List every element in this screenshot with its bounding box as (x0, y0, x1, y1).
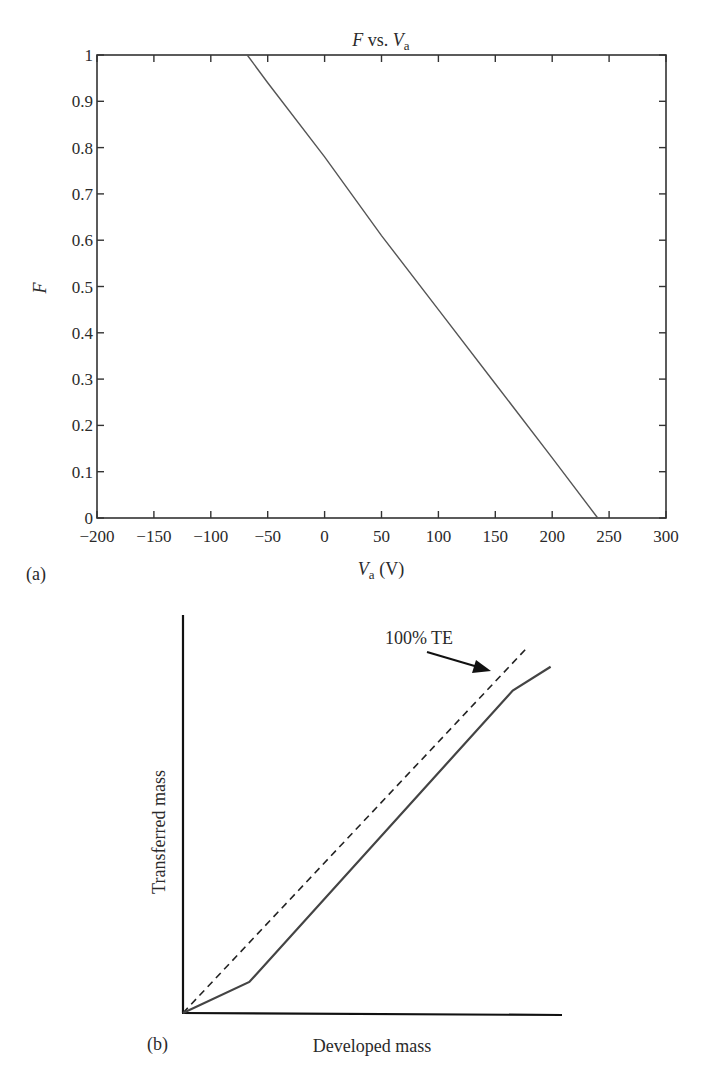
y-axis-title-a: F (30, 282, 50, 295)
x-axis-title-a: Va (V) (358, 559, 404, 582)
arrow-icon (427, 652, 491, 673)
y-tick-label: 0 (85, 509, 94, 528)
chart-panel-a: F vs. Va −200−150−100−500501001502002503… (26, 30, 679, 585)
x-tick-label: −200 (79, 527, 114, 546)
x-tick-label: 300 (653, 527, 679, 546)
x-axis-title-b: Developed mass (313, 1036, 431, 1056)
series-line-F (247, 55, 598, 518)
x-tick-label: −50 (254, 527, 281, 546)
y-tick-label: 0.4 (72, 324, 94, 343)
chart-a-title: F vs. Va (351, 30, 410, 53)
x-tick-label: −100 (193, 527, 228, 546)
y-tick-label: 1 (85, 46, 94, 65)
y-axis-title-b: Transferred mass (149, 770, 169, 894)
series-line-transferred-mass (183, 667, 551, 1013)
x-tick-label: −150 (136, 527, 171, 546)
x-tick-label: 0 (320, 527, 329, 546)
y-axis-a: 00.10.20.30.40.50.60.70.80.91 (72, 46, 666, 528)
series-line-100-te (183, 647, 528, 1013)
x-tick-label: 250 (596, 527, 622, 546)
x-tick-label: 50 (373, 527, 390, 546)
x-axis-a: −200−150−100−50050100150200250300 (79, 55, 678, 546)
x-tick-label: 200 (539, 527, 565, 546)
y-tick-label: 0.8 (72, 139, 93, 158)
plot-frame-a (97, 55, 666, 518)
panel-label-b: (b) (147, 1034, 168, 1055)
y-tick-label: 0.3 (72, 370, 93, 389)
y-tick-label: 0.1 (72, 463, 93, 482)
chart-panel-b: 100% TE Transferred mass Developed mass … (147, 615, 562, 1056)
y-tick-label: 0.7 (72, 185, 94, 204)
annotation-100-te: 100% TE (385, 628, 453, 648)
x-tick-label: 150 (483, 527, 509, 546)
x-tick-label: 100 (426, 527, 452, 546)
y-tick-label: 0.2 (72, 416, 93, 435)
y-tick-label: 0.9 (72, 92, 93, 111)
y-tick-label: 0.5 (72, 278, 93, 297)
figure: F vs. Va −200−150−100−500501001502002503… (0, 0, 706, 1085)
x-axis-b (182, 1013, 562, 1015)
panel-label-a: (a) (26, 564, 46, 585)
y-tick-label: 0.6 (72, 231, 93, 250)
